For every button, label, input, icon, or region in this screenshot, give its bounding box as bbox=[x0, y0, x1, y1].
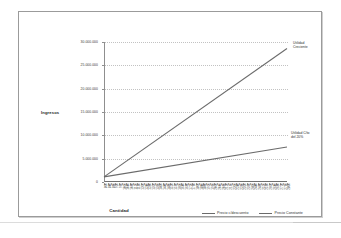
legend-label: Precio Constante bbox=[274, 211, 302, 215]
series-line bbox=[104, 49, 287, 177]
x-axis-title: Cantidad bbox=[19, 208, 219, 213]
legend-swatch bbox=[202, 213, 215, 214]
chart-legend: Precio c/descuentoPrecio Constante bbox=[202, 211, 303, 215]
chart-object-frame[interactable]: Ingresos 30.000.00025.000.00020.000.0001… bbox=[18, 11, 322, 217]
y-axis: 30.000.00025.000.00020.000.00015.000.000… bbox=[19, 42, 102, 182]
y-tick-label: 20.000.000 bbox=[81, 87, 98, 91]
page-bottom-edge bbox=[0, 222, 341, 223]
page-bottom-edge-shadow bbox=[293, 222, 341, 223]
y-tick-label: 5.000.000 bbox=[82, 157, 98, 161]
y-tick-label: 30.000.000 bbox=[81, 40, 98, 44]
series-lines bbox=[104, 42, 287, 182]
x-axis: 8008408809209601000104010801120116012001… bbox=[104, 183, 287, 205]
annotation-utilidad-descuento: Utilidad C/to del 20% bbox=[291, 131, 309, 140]
y-tick-label: 15.000.000 bbox=[81, 110, 98, 114]
document-page: Ingresos 30.000.00025.000.00020.000.0001… bbox=[0, 0, 341, 238]
legend-swatch bbox=[259, 213, 272, 214]
legend-item: Precio c/descuento bbox=[202, 211, 248, 215]
y-tick-label: 25.000.000 bbox=[81, 63, 98, 67]
legend-label: Precio c/descuento bbox=[217, 211, 248, 215]
y-tick-label: 0 bbox=[96, 180, 98, 184]
x-tick-label: 2800 bbox=[288, 183, 291, 190]
series-line bbox=[104, 147, 287, 177]
y-tick-label: 10.000.000 bbox=[81, 133, 98, 137]
legend-item: Precio Constante bbox=[259, 211, 302, 215]
annotation-utilidad-creciente: Utilidad Creciente bbox=[293, 41, 308, 50]
